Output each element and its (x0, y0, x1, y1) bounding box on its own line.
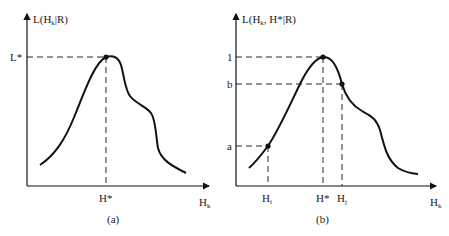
point-i (265, 143, 270, 148)
likelihood-curve-a (40, 56, 186, 173)
panel-a (27, 14, 209, 186)
tick-lstar: L* (10, 52, 22, 63)
tick-hstar-a: H* (99, 193, 112, 204)
caption-b: (b) (316, 214, 329, 225)
x-axis-label-a: Hk (199, 197, 210, 210)
x-axis-label-b: Hk (430, 197, 441, 210)
likelihood-curve-b (249, 57, 418, 174)
point-j (339, 81, 344, 86)
panel-b (236, 14, 436, 186)
y-axis-label-a: L(Hk|R) (33, 14, 68, 27)
peak-point-b (320, 54, 325, 59)
tick-b: b (227, 79, 233, 90)
tick-a: a (227, 141, 232, 152)
y-axis-label-b: L(Hk, H*|R) (242, 14, 296, 27)
caption-a: (a) (107, 214, 119, 225)
tick-hj: Hj (337, 193, 347, 206)
tick-hi: Hi (262, 193, 272, 206)
tick-hstar-b: H* (316, 193, 329, 204)
tick-1: 1 (227, 52, 233, 63)
diagram-canvas (0, 0, 449, 236)
peak-point-a (103, 54, 108, 59)
